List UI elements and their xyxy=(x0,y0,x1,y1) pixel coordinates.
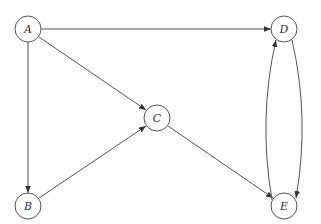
node-c: C xyxy=(144,105,170,131)
node-c-label: C xyxy=(153,112,162,125)
node-d-label: D xyxy=(279,23,289,36)
node-b: B xyxy=(15,193,41,219)
node-a: A xyxy=(15,16,41,42)
edge-b-c xyxy=(39,126,146,198)
graph-canvas: A B C D E xyxy=(0,0,321,224)
node-e-label: E xyxy=(279,200,288,213)
edge-c-e xyxy=(168,126,273,198)
edge-e-d xyxy=(266,40,276,200)
edge-a-c xyxy=(39,37,146,110)
node-b-label: B xyxy=(23,200,32,213)
edge-d-e xyxy=(292,40,302,198)
node-d: D xyxy=(271,16,297,42)
node-e: E xyxy=(271,193,297,219)
node-a-label: A xyxy=(23,23,32,36)
